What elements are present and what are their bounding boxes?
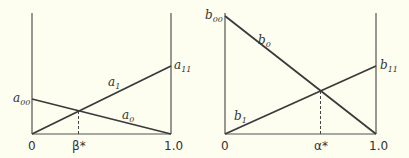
diagram-canvas: 0 β* 1.0 a00 a11 a1 a0 0 α* 1.0 b00 b11 … [0,0,409,158]
line-b0 [225,16,376,134]
label-b1: b1 [234,109,247,125]
label-a0: a0 [122,108,134,124]
label-b0: b0 [258,33,271,49]
right-tick-alpha-star: α* [314,139,328,153]
right-tick-zero: 0 [221,139,229,153]
right-tick-one: 1.0 [369,139,388,153]
line-a0 [32,99,171,134]
line-b1 [225,66,376,134]
label-a1: a1 [108,75,120,91]
left-tick-one: 1.0 [164,139,183,153]
line-a1 [32,66,171,134]
label-b00: b00 [205,8,223,24]
left-tick-zero: 0 [28,139,36,153]
label-b11: b11 [380,58,398,74]
label-a11: a11 [174,58,191,74]
label-a00: a00 [13,91,30,107]
right-diagram: 0 α* 1.0 b00 b11 b0 b1 [205,8,398,153]
left-tick-beta-star: β* [72,139,86,153]
left-diagram: 0 β* 1.0 a00 a11 a1 a0 [13,13,191,153]
